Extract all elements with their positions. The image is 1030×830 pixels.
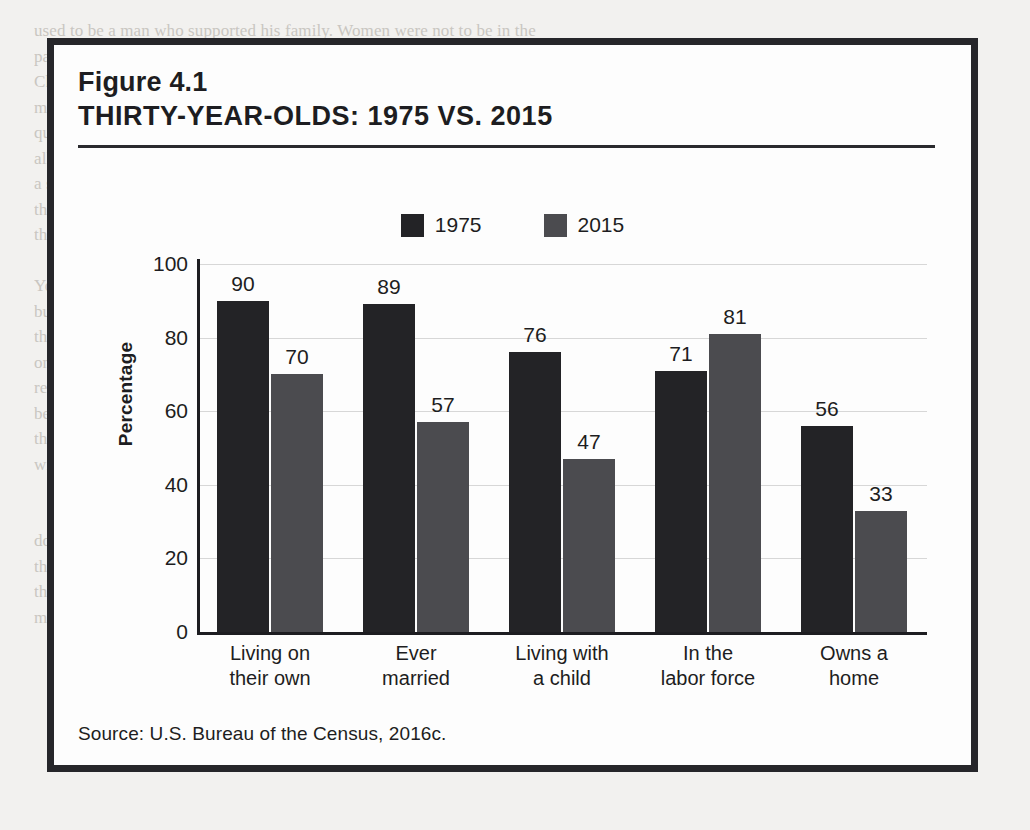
bar-value-label: 33	[869, 482, 892, 506]
source-note: Source: U.S. Bureau of the Census, 2016c…	[78, 723, 446, 745]
bar-value-label: 71	[669, 342, 692, 366]
bar-value-label: 56	[815, 397, 838, 421]
x-category-label-line: Owns a	[769, 641, 939, 666]
x-category-label: In thelabor force	[623, 641, 793, 691]
x-category-label-line: labor force	[623, 666, 793, 691]
bar-2015-3[interactable]	[563, 459, 615, 632]
plot-area: Percentage 020406080100 9070895776477181…	[54, 45, 971, 765]
x-category-label: Evermarried	[331, 641, 501, 691]
bar-1975-1[interactable]	[217, 301, 269, 632]
x-category-label-line: Living with	[477, 641, 647, 666]
bar-1975-3[interactable]	[509, 352, 561, 632]
y-tick-label: 40	[116, 473, 188, 497]
bar-value-label: 81	[723, 305, 746, 329]
y-tick-label: 0	[116, 620, 188, 644]
x-category-label-line: a child	[477, 666, 647, 691]
gridline	[197, 338, 927, 339]
bar-1975-5[interactable]	[801, 426, 853, 632]
bar-2015-1[interactable]	[271, 374, 323, 632]
bar-2015-4[interactable]	[709, 334, 761, 632]
y-tick-label: 80	[116, 326, 188, 350]
x-category-label-line: Ever	[331, 641, 501, 666]
y-tick-label: 100	[116, 252, 188, 276]
bar-1975-2[interactable]	[363, 304, 415, 632]
bar-value-label: 89	[377, 275, 400, 299]
figure-inner: Figure 4.1 THIRTY-YEAR-OLDS: 1975 VS. 20…	[54, 45, 971, 765]
x-category-label: Living ontheir own	[185, 641, 355, 691]
figure-box: Figure 4.1 THIRTY-YEAR-OLDS: 1975 VS. 20…	[47, 38, 978, 772]
bar-value-label: 47	[577, 430, 600, 454]
bar-value-label: 70	[285, 345, 308, 369]
bar-value-label: 57	[431, 393, 454, 417]
gridline	[197, 264, 927, 265]
x-axis-line	[197, 632, 927, 635]
x-category-label-line: In the	[623, 641, 793, 666]
x-category-label: Living witha child	[477, 641, 647, 691]
x-category-label-line: home	[769, 666, 939, 691]
x-category-label-line: Living on	[185, 641, 355, 666]
bar-1975-4[interactable]	[655, 371, 707, 632]
bar-value-label: 76	[523, 323, 546, 347]
x-category-label-line: married	[331, 666, 501, 691]
bar-2015-2[interactable]	[417, 422, 469, 632]
y-tick-label: 20	[116, 546, 188, 570]
y-tick-label: 60	[116, 399, 188, 423]
y-axis-line	[197, 259, 200, 635]
bar-2015-5[interactable]	[855, 511, 907, 632]
bar-value-label: 90	[231, 272, 254, 296]
x-category-label-line: their own	[185, 666, 355, 691]
x-category-label: Owns ahome	[769, 641, 939, 691]
